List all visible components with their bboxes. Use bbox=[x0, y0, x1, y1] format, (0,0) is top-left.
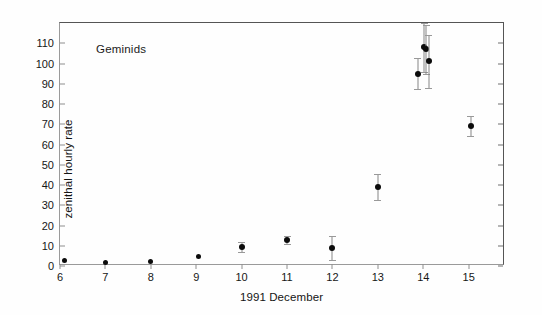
data-marker bbox=[284, 237, 290, 243]
y-tick-label: 30 bbox=[42, 199, 54, 211]
x-tick-mark bbox=[423, 264, 424, 269]
x-tick-mark bbox=[150, 264, 151, 269]
y-tick-label: 90 bbox=[42, 78, 54, 90]
error-bar-cap-lower bbox=[284, 244, 291, 245]
x-tick-label: 13 bbox=[372, 271, 384, 283]
data-marker bbox=[62, 258, 67, 263]
data-marker bbox=[468, 123, 474, 129]
data-marker bbox=[375, 184, 381, 190]
data-marker bbox=[103, 260, 108, 265]
error-bar-cap-lower bbox=[238, 252, 245, 253]
data-marker bbox=[239, 244, 245, 250]
error-bar-cap-lower bbox=[329, 260, 336, 261]
error-bar-cap-upper bbox=[374, 174, 381, 175]
error-bar-cap-upper bbox=[421, 23, 428, 24]
data-series-geminids bbox=[60, 23, 503, 264]
error-bar-cap-lower bbox=[414, 89, 421, 90]
y-tick-label: 40 bbox=[42, 179, 54, 191]
x-tick-mark bbox=[241, 264, 242, 269]
y-tick-label: 110 bbox=[36, 37, 54, 49]
x-tick-label: 11 bbox=[281, 271, 292, 283]
plot-area: Geminids zenithal hourly rate 1991 Decem… bbox=[59, 22, 504, 265]
y-tick-label: 80 bbox=[42, 98, 54, 110]
error-bar-cap-upper bbox=[467, 116, 474, 117]
x-tick-label: 9 bbox=[193, 271, 199, 283]
x-tick-mark bbox=[287, 264, 288, 269]
error-bar-cap-upper bbox=[329, 236, 336, 237]
data-marker bbox=[196, 254, 201, 259]
x-tick-label: 15 bbox=[463, 271, 475, 283]
y-tick-label: 100 bbox=[36, 58, 54, 70]
x-tick-label: 6 bbox=[57, 271, 63, 283]
y-tick-label: 10 bbox=[42, 240, 54, 252]
x-tick-mark bbox=[196, 264, 197, 269]
x-tick-mark bbox=[60, 264, 61, 269]
error-bar-cap-lower bbox=[374, 200, 381, 201]
x-axis-title: 1991 December bbox=[240, 291, 323, 303]
error-bar-cap-lower bbox=[425, 88, 432, 89]
error-bar-cap-upper bbox=[414, 58, 421, 59]
y-tick-label: 70 bbox=[42, 118, 54, 130]
x-tick-mark bbox=[332, 264, 333, 269]
error-bar-cap-upper bbox=[425, 35, 432, 36]
figure-canvas: Geminids zenithal hourly rate 1991 Decem… bbox=[0, 0, 542, 315]
data-marker bbox=[148, 259, 153, 264]
y-tick-label: 60 bbox=[42, 139, 54, 151]
x-tick-label: 8 bbox=[148, 271, 154, 283]
y-tick-mark-right bbox=[498, 266, 503, 267]
y-tick-label: 0 bbox=[48, 260, 54, 272]
x-tick-label: 14 bbox=[417, 271, 429, 283]
data-marker bbox=[426, 58, 432, 64]
x-tick-label: 7 bbox=[102, 271, 108, 283]
error-bar-cap-upper bbox=[238, 242, 245, 243]
error-bar-cap-lower bbox=[467, 136, 474, 137]
x-tick-mark bbox=[377, 264, 378, 269]
error-bar-cap-upper bbox=[423, 25, 430, 26]
y-tick-mark bbox=[60, 266, 65, 267]
y-tick-label: 50 bbox=[42, 159, 54, 171]
x-tick-label: 10 bbox=[236, 271, 248, 283]
y-tick-label: 20 bbox=[42, 220, 54, 232]
x-tick-mark bbox=[468, 264, 469, 269]
x-tick-label: 12 bbox=[326, 271, 338, 283]
data-marker bbox=[329, 245, 335, 251]
